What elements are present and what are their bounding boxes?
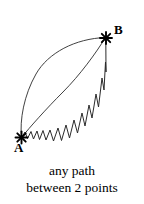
caption: any path between 2 points [0, 162, 144, 196]
figure-container: A B any path between 2 points [0, 0, 144, 204]
caption-line-1: any path [0, 162, 144, 179]
point-b-marker [100, 32, 112, 44]
caption-line-2: between 2 points [0, 179, 144, 196]
point-a-label: A [14, 141, 23, 154]
zigzag-path [22, 39, 107, 142]
point-b-label: B [114, 23, 123, 36]
inner-arc-path [22, 38, 106, 138]
